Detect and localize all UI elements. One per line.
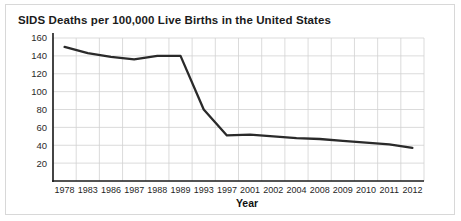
x-tick-label: 2011 <box>380 185 399 195</box>
x-tick-label: 1978 <box>55 185 75 195</box>
x-tick-label: 1997 <box>217 185 237 195</box>
x-tick-label: 2010 <box>356 185 376 195</box>
x-tick-label: 2008 <box>310 185 330 195</box>
gridlines <box>53 38 424 181</box>
y-tick-label: 60 <box>36 122 47 133</box>
x-tick-label: 1988 <box>147 185 167 195</box>
x-tick-label: 2004 <box>286 185 306 195</box>
y-tick-label: 100 <box>31 86 47 97</box>
x-tick-label: 1993 <box>194 185 214 195</box>
y-tick-label: 160 <box>31 32 47 43</box>
y-tick-label: 20 <box>36 158 47 169</box>
chart-card: SIDS Deaths per 100,000 Live Births in t… <box>5 4 455 215</box>
x-tick-label: 1987 <box>124 185 144 195</box>
plot-area: 20406080100120140160 1978198319861987198… <box>6 5 456 216</box>
x-axis-tick-labels: 1978198319861987198819891993199720012002… <box>55 185 423 195</box>
x-axis-title: Year <box>6 197 454 209</box>
x-tick-label: 1989 <box>171 185 191 195</box>
y-tick-label: 120 <box>31 68 47 79</box>
x-tick-label: 2012 <box>402 185 422 195</box>
y-axis-tick-labels: 20406080100120140160 <box>31 32 47 168</box>
x-tick-label: 2009 <box>333 185 353 195</box>
y-tick-label: 80 <box>36 104 47 115</box>
y-tick-label: 40 <box>36 140 47 151</box>
line-chart-svg: 20406080100120140160 1978198319861987198… <box>6 5 456 216</box>
x-tick-label: 1983 <box>78 185 98 195</box>
x-tick-label: 2001 <box>240 185 260 195</box>
x-tick-label: 1986 <box>101 185 121 195</box>
x-tick-label: 2002 <box>263 185 283 195</box>
y-tick-label: 140 <box>31 50 47 61</box>
